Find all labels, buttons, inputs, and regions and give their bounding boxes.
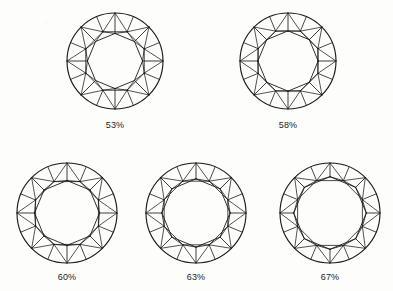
diamond-caption-53: 53% xyxy=(106,120,125,130)
diamond-table-comparison-figure: 53%58%60%63%67% xyxy=(0,0,393,291)
diamond-caption-58: 58% xyxy=(279,120,298,130)
diamond-facet-diagram xyxy=(277,160,383,266)
diamond-crown-view-67 xyxy=(277,160,383,266)
diamond-facet-diagram xyxy=(14,160,120,266)
diamond-caption-60: 60% xyxy=(58,272,77,282)
diamond-crown-view-58 xyxy=(237,10,339,112)
diamond-facet-diagram xyxy=(237,10,339,112)
diamond-caption-67: 67% xyxy=(321,272,340,282)
diamond-caption-63: 63% xyxy=(187,272,206,282)
diamond-facet-diagram xyxy=(143,160,249,266)
diamond-crown-view-53 xyxy=(64,10,166,112)
diamond-crown-view-60 xyxy=(14,160,120,266)
diamond-crown-view-63 xyxy=(143,160,249,266)
diamond-facet-diagram xyxy=(64,10,166,112)
